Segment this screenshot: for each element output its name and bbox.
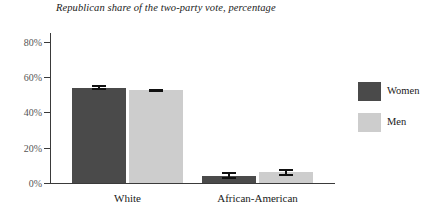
y-axis-tick-label: 60% (24, 72, 42, 83)
y-axis-tick-label: 40% (24, 107, 42, 118)
x-axis-segment (180, 183, 335, 184)
legend-swatch-men-icon (358, 113, 381, 132)
y-axis-tick-label: 20% (24, 142, 42, 153)
bar-white-women[interactable] (72, 88, 126, 183)
chart-container: Republican share of the two-party vote, … (0, 0, 433, 223)
error-bar-cap-top (279, 169, 293, 171)
legend-label-women: Women (387, 85, 419, 96)
bar-white-men[interactable] (129, 90, 183, 183)
error-bar-cap-bottom (222, 177, 236, 179)
error-bar-cap-top (222, 172, 236, 174)
plot-area (50, 33, 334, 183)
error-bar-cap-bottom (92, 88, 106, 90)
error-bar-cap-bottom (279, 174, 293, 176)
legend-label-men: Men (387, 116, 406, 127)
error-bar-cap-top (92, 85, 106, 87)
y-axis-tick-label: 0% (29, 178, 42, 189)
legend-swatch-women-icon (358, 82, 381, 101)
error-bar (149, 89, 163, 93)
x-axis-group-label: African-American (180, 192, 335, 204)
y-axis-tick-label: 80% (24, 36, 42, 47)
chart-title: Republican share of the two-party vote, … (56, 2, 276, 13)
error-bar (92, 85, 106, 90)
error-bar-cap-bottom (149, 90, 163, 92)
error-bar (222, 172, 236, 179)
error-bar (279, 169, 293, 176)
